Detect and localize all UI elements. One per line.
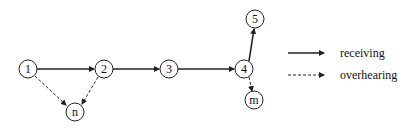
node-5: 5 [246,10,264,28]
node-1: 1 [19,60,37,78]
node-label: 5 [252,12,258,26]
node-m: m [245,91,263,109]
legend-overhearing-label: overhearing [340,68,397,82]
edge-2-n-overhearing [82,77,98,104]
edge-4-5-receiving [249,29,254,61]
node-2: 2 [95,60,113,78]
edge-4-m-overhearing [249,77,252,91]
network-diagram: 1 2 3 4 5 n m receiving overhearing [0,0,408,128]
node-n: n [66,103,84,121]
node-label: 2 [101,62,107,76]
node-label: 1 [25,62,31,76]
node-3: 3 [160,60,178,78]
legend-receiving-label: receiving [340,46,385,60]
node-label: 3 [166,62,172,76]
edge-1-n-overhearing [35,76,66,105]
edges [35,29,254,105]
node-label: n [72,105,78,119]
node-label: m [249,93,259,107]
legend: receiving overhearing [288,46,397,82]
node-4: 4 [235,60,253,78]
node-label: 4 [241,62,247,76]
